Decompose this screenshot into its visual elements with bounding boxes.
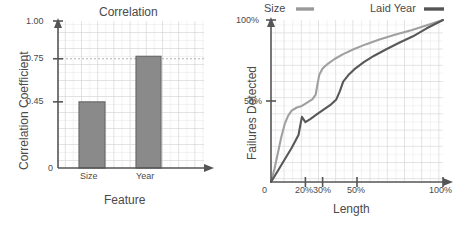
line-chart-xlabel: Length (333, 203, 370, 215)
legend-label-laid-year: Laid Year (370, 3, 416, 14)
bar-chart-ylabel: Correlation Coefficient (18, 51, 30, 170)
bar-category-year: Year (136, 172, 154, 181)
line-xtick-20: 20% (295, 186, 313, 195)
line-ytick-0: 0 (262, 186, 267, 195)
line-chart-gridlines (271, 20, 443, 182)
line-chart-ylabel: Failures Detected (246, 66, 258, 160)
correlation-bar-chart: 1.00 0.75 0.45 0 Size Year Correlation F… (0, 0, 232, 229)
bar-year (136, 56, 161, 168)
bar-chart-xlabel: Feature (104, 194, 145, 206)
legend-label-size: Size (264, 3, 285, 14)
bar-ytick-1-00: 1.00 (26, 17, 44, 26)
figure-container: 1.00 0.75 0.45 0 Size Year Correlation F… (0, 0, 465, 229)
failures-detected-line-chart: Size Laid Year 100% 50% 0 20% 30% 50% 10… (232, 0, 465, 229)
bar-chart-title: Correlation (99, 6, 158, 18)
line-ytick-100: 100% (236, 16, 259, 25)
bar-category-size: Size (80, 172, 98, 181)
line-xtick-50: 50% (347, 186, 365, 195)
bar-ytick-0: 0 (48, 164, 53, 173)
line-xtick-30: 30% (313, 186, 331, 195)
line-xtick-100: 100% (429, 186, 452, 195)
bar-size (79, 102, 105, 168)
